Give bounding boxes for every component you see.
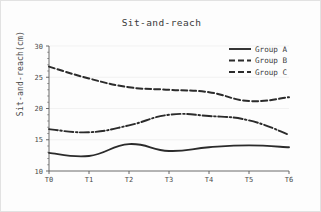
legend-label-group-c: Group C (255, 68, 287, 77)
y-axis-ticks: 1015202530 (35, 43, 49, 176)
plot-area: 1015202530 T0T1T2T3T4T5T6 Group AGroup B… (1, 1, 321, 212)
chart-frame: Sit-and-reach Sit-and-reach(cm) 10152025… (0, 0, 321, 212)
y-tick-label: 30 (35, 43, 43, 51)
legend-label-group-a: Group A (255, 45, 287, 54)
x-tick-label: T4 (205, 176, 213, 184)
legend: Group AGroup BGroup C (229, 45, 287, 77)
chart-svg: 1015202530 T0T1T2T3T4T5T6 Group AGroup B… (1, 1, 321, 212)
x-tick-label: T1 (85, 176, 93, 184)
gridlines (49, 46, 289, 140)
series-line-group-c (49, 67, 289, 102)
x-tick-label: T2 (125, 176, 133, 184)
legend-label-group-b: Group B (255, 56, 287, 65)
x-tick-label: T3 (165, 176, 173, 184)
x-tick-label: T5 (245, 176, 253, 184)
series-line-group-b (49, 114, 289, 135)
y-tick-label: 20 (35, 105, 43, 113)
y-tick-label: 25 (35, 74, 43, 82)
data-series-group (49, 67, 289, 157)
series-line-group-a (49, 144, 289, 156)
y-tick-label: 15 (35, 136, 43, 144)
y-tick-label: 10 (35, 168, 43, 176)
x-tick-label: T0 (45, 176, 53, 184)
x-tick-label: T6 (285, 176, 293, 184)
x-axis-ticks: T0T1T2T3T4T5T6 (45, 171, 293, 184)
